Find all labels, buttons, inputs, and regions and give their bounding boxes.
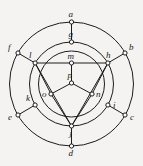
edge-f-l	[18, 53, 35, 63]
edge-c-i	[108, 105, 125, 115]
vertex-node-e	[16, 113, 20, 117]
edge-e-k	[18, 105, 35, 115]
edge-p-o	[51, 83, 72, 94]
vertex-label-a: a	[69, 10, 74, 19]
vertex-node-m	[69, 61, 73, 65]
edge-b-h	[108, 53, 125, 63]
vertex-label-b: b	[129, 43, 134, 52]
vertex-node-k	[33, 103, 37, 107]
vertex-label-d: d	[69, 149, 74, 158]
vertex-label-g: g	[69, 30, 74, 39]
vertex-label-o: o	[42, 90, 47, 99]
edge-p-n	[72, 83, 93, 94]
figure-root: · · · ··· ·· ·· · · ·· · abcdefghijklmno…	[0, 0, 143, 166]
vertex-label-n: n	[96, 90, 101, 99]
vertex-node-g	[69, 40, 73, 44]
vertex-label-c: c	[130, 113, 134, 122]
vertex-node-h	[106, 61, 110, 65]
vertex-label-m: m	[68, 52, 75, 61]
vertex-node-n	[90, 92, 94, 96]
vertex-node-p	[69, 81, 73, 85]
vertex-label-h: h	[106, 51, 111, 60]
edge-o-j	[51, 94, 72, 126]
vertex-label-k: k	[26, 94, 30, 103]
vertex-label-p: p	[68, 71, 73, 80]
vertex-node-a	[69, 20, 73, 24]
vertex-node-f	[16, 51, 20, 55]
vertex-label-i: i	[113, 101, 116, 110]
graph-canvas	[0, 0, 143, 166]
vertex-node-b	[123, 51, 127, 55]
vertex-label-f: f	[8, 43, 11, 52]
vertex-label-e: e	[8, 113, 12, 122]
vertex-node-l	[33, 61, 37, 65]
vertex-node-o	[49, 92, 53, 96]
edge-n-j	[72, 94, 93, 126]
vertex-node-i	[106, 103, 110, 107]
vertex-label-l: l	[29, 51, 32, 60]
vertex-label-j: j	[70, 129, 73, 138]
vertex-node-c	[123, 113, 127, 117]
